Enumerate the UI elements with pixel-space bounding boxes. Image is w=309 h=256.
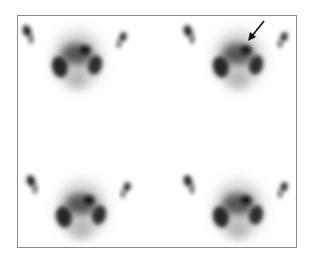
uptake-image bbox=[24, 169, 134, 244]
uptake-image bbox=[181, 19, 291, 94]
uptake-image bbox=[20, 19, 130, 94]
scan-panel-bottom-right bbox=[181, 169, 291, 244]
scan-panel-bottom-left bbox=[24, 169, 134, 244]
image-frame bbox=[17, 15, 297, 248]
uptake-image bbox=[181, 169, 291, 244]
scan-panel-top-left bbox=[20, 19, 130, 94]
arrow-icon bbox=[246, 20, 266, 42]
scan-panel-top-right bbox=[181, 19, 291, 94]
